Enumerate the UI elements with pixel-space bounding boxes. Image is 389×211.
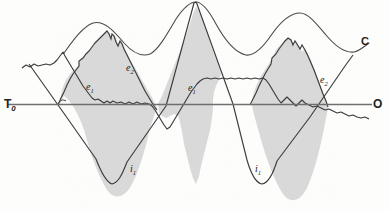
label-i1-right: i1 [255, 163, 261, 176]
waveform-canvas [0, 0, 389, 211]
label-e1-middle: e1 [188, 82, 196, 95]
label-e2-left: e2 [126, 62, 134, 75]
label-carrier-C: C [361, 35, 369, 47]
label-e2-right: e2 [320, 74, 328, 87]
label-e1-left: e1 [86, 81, 94, 94]
label-i1-left: i1 [130, 163, 136, 176]
label-time-origin: T0 [4, 97, 16, 113]
waveform-figure: T0 O C e1 e1 e2 e2 i1 i1 [0, 0, 389, 211]
label-axis-end: O [373, 97, 382, 111]
